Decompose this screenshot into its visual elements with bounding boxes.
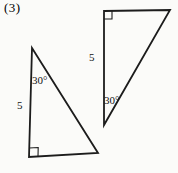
left-triangle-angle-label: 30° [32, 74, 47, 86]
left-triangle-outline [29, 48, 98, 157]
triangle-diagram: 30°5530° [0, 0, 178, 173]
right-triangle-outline [104, 10, 170, 125]
right-triangle-angle-label: 30° [104, 94, 119, 106]
left-triangle-right-angle-mark [29, 148, 38, 157]
right-triangle-right-angle-mark [104, 11, 112, 19]
left-triangle-side-label: 5 [17, 99, 23, 111]
figure-canvas: (3) 30°5530° [0, 0, 178, 173]
right-triangle-side-label: 5 [89, 51, 95, 63]
